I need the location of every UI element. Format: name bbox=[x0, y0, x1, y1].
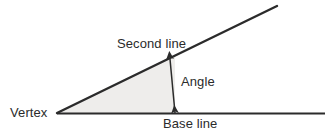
base-line-label: Base line bbox=[163, 117, 217, 131]
vertex-label: Vertex bbox=[10, 106, 47, 120]
second-line-label: Second line bbox=[117, 37, 186, 51]
angle-label: Angle bbox=[181, 75, 215, 89]
angle-diagram: Vertex Second line Angle Base line bbox=[0, 0, 333, 139]
